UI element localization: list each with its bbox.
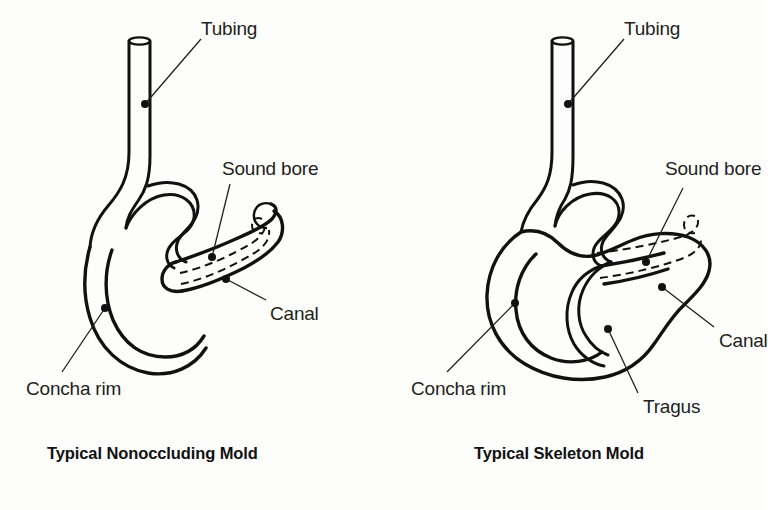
label-concha-rim-right: Concha rim	[411, 378, 506, 400]
skeleton-mold-drawing	[447, 37, 714, 393]
leader-line-concha-rim-right	[447, 303, 515, 372]
tubing-left-wall	[90, 41, 129, 247]
leader-line-canal-left	[226, 279, 266, 300]
label-sound-bore-left: Sound bore	[222, 158, 318, 180]
nonoccluding-mold-drawing	[62, 37, 283, 373]
label-tubing-right: Tubing	[624, 18, 680, 40]
tubing-top-opening	[129, 37, 150, 44]
leader-dot-sound-bore-left	[208, 253, 216, 261]
leader-dot-concha-rim-left	[101, 304, 109, 312]
canal-tube-upper-right	[601, 253, 664, 266]
label-canal-right: Canal	[719, 330, 768, 352]
sound-bore-dashed-tip-right	[684, 216, 695, 234]
caption-skeleton-mold: Typical Skeleton Mold	[474, 444, 644, 463]
tubing-left-wall-right	[521, 41, 552, 232]
tubing-right-wall-right	[555, 41, 573, 226]
label-tubing-left: Tubing	[201, 18, 257, 40]
leader-line-tragus-right	[608, 329, 638, 393]
leader-dot-sound-bore-right	[642, 258, 650, 266]
leader-dot-tragus-right	[604, 325, 612, 333]
leader-line-tubing-left	[145, 39, 201, 104]
leader-dot-tubing-left	[141, 100, 149, 108]
leader-line-sound-bore-right	[646, 188, 683, 262]
label-tragus-right: Tragus	[643, 396, 700, 418]
concha-rim-inner	[106, 250, 204, 357]
tubing-top-opening-right	[552, 37, 573, 44]
label-concha-rim-left: Concha rim	[26, 378, 121, 400]
leader-dot-canal-right	[658, 283, 666, 291]
label-sound-bore-right: Sound bore	[665, 158, 761, 180]
leader-dot-canal-left	[222, 275, 230, 283]
leader-dot-concha-rim-right	[511, 299, 519, 307]
caption-nonoccluding-mold: Typical Nonoccluding Mold	[47, 444, 258, 463]
label-canal-left: Canal	[270, 303, 319, 325]
leader-dot-tubing-right	[564, 100, 572, 108]
leader-line-tubing-right	[568, 39, 624, 104]
